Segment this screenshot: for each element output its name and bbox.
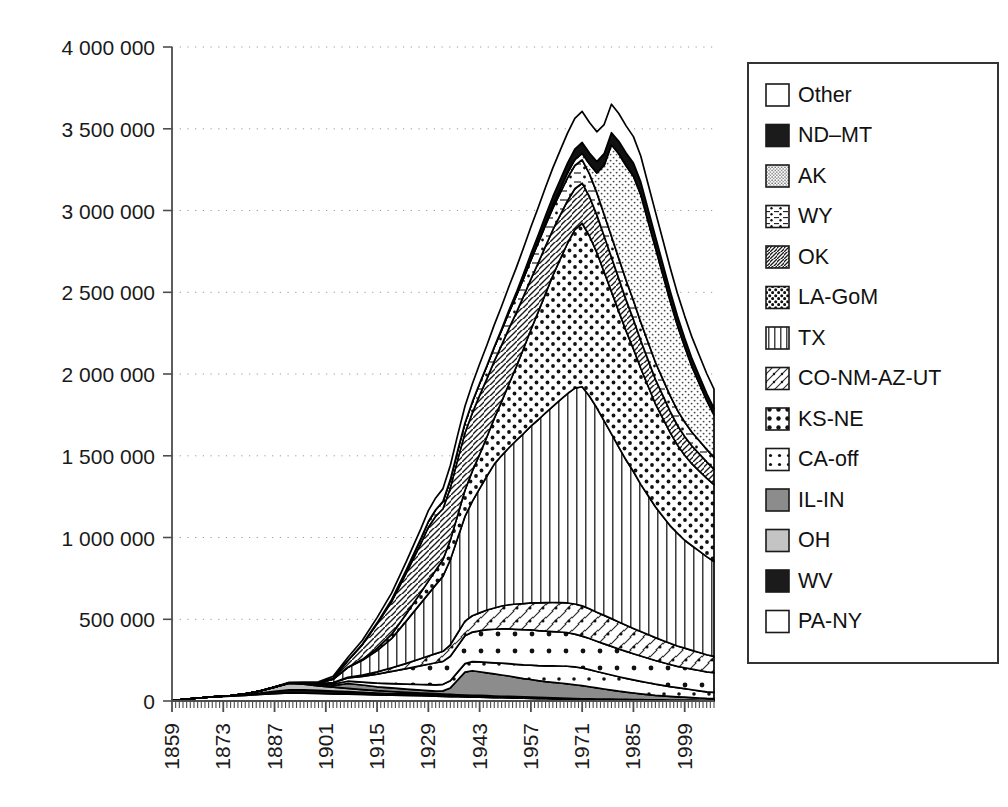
y-tick-label: 2 000 000 — [62, 363, 155, 386]
x-tick-label: 1971 — [570, 723, 593, 770]
legend-item-ca-off[interactable]: CA-off — [766, 447, 859, 471]
legend-swatch — [766, 246, 789, 268]
x-tick-label: 1873 — [211, 723, 234, 770]
x-tick-label: 1999 — [673, 723, 696, 770]
legend-swatch — [766, 449, 789, 471]
legend-item-il-in[interactable]: IL-IN — [766, 488, 845, 512]
legend-item-nd-mt[interactable]: ND–MT — [766, 123, 872, 147]
legend-label: TX — [798, 326, 825, 350]
legend-swatch — [766, 611, 789, 633]
x-tick-label: 1887 — [263, 723, 286, 770]
y-tick-label: 0 — [143, 690, 155, 713]
legend-label: AK — [798, 164, 827, 188]
x-tick-label: 1915 — [365, 723, 388, 770]
y-tick-label: 4 000 000 — [62, 36, 155, 59]
x-tick-label: 1943 — [468, 723, 491, 770]
legend-label: CA-off — [798, 447, 859, 471]
legend-item-ok[interactable]: OK — [766, 245, 830, 269]
y-tick-label: 3 500 000 — [62, 118, 155, 141]
legend-swatch — [766, 530, 789, 552]
legend-item-ks-ne[interactable]: KS-NE — [766, 407, 864, 431]
legend-label: ND–MT — [798, 123, 872, 147]
x-tick-label: 1859 — [160, 723, 183, 770]
legend-swatch — [766, 125, 789, 147]
x-tick-label: 1929 — [416, 723, 439, 770]
y-tick-label: 1 500 000 — [62, 445, 155, 468]
legend-label: WY — [798, 204, 833, 228]
legend-item-oh[interactable]: OH — [766, 528, 830, 552]
chart-legend[interactable]: OtherND–MTAKWYOKLA-GoMTXCO-NM-AZ-UTKS-NE… — [748, 63, 998, 663]
legend-label: OH — [798, 528, 830, 552]
x-tick-label: 1901 — [314, 723, 337, 770]
legend-label: IL-IN — [798, 488, 845, 512]
legend-label: WV — [798, 569, 833, 593]
legend-swatch — [766, 489, 789, 511]
legend-swatch — [766, 327, 789, 349]
y-tick-label: 3 000 000 — [62, 200, 155, 223]
legend-swatch — [766, 165, 789, 187]
legend-swatch — [766, 570, 789, 592]
legend-item-la-gom[interactable]: LA-GoM — [766, 285, 878, 309]
x-tick-label: 1957 — [519, 723, 542, 770]
chart-page: 0500 0001 000 0001 500 0002 000 0002 500… — [0, 0, 1008, 807]
y-tick-label: 1 000 000 — [62, 527, 155, 550]
legend-swatch — [766, 84, 789, 106]
y-tick-label: 500 000 — [79, 608, 155, 631]
legend-label: LA-GoM — [798, 285, 878, 309]
legend-swatch — [766, 287, 789, 309]
legend-label: KS-NE — [798, 407, 864, 431]
legend-label: Other — [798, 83, 852, 107]
legend-item-other[interactable]: Other — [766, 83, 852, 107]
stacked-area-chart: 0500 0001 000 0001 500 0002 000 0002 500… — [0, 0, 1008, 807]
x-tick-label: 1985 — [621, 723, 644, 770]
legend-label: PA-NY — [798, 609, 862, 633]
legend-swatch — [766, 206, 789, 228]
legend-item-wv[interactable]: WV — [766, 569, 833, 593]
legend-swatch — [766, 368, 789, 390]
y-tick-label: 2 500 000 — [62, 281, 155, 304]
legend-item-pa-ny[interactable]: PA-NY — [766, 609, 862, 633]
legend-label: OK — [798, 245, 830, 269]
legend-swatch — [766, 408, 789, 430]
legend-label: CO-NM-AZ-UT — [798, 366, 941, 390]
legend-item-wy[interactable]: WY — [766, 204, 833, 228]
